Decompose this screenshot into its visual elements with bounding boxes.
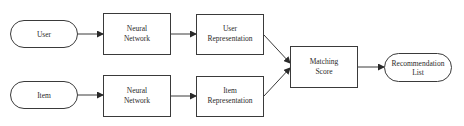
item-rep-label-line2: Representation: [208, 96, 253, 105]
node-user: User: [11, 21, 78, 48]
node-neural-network-top: Neural Network: [104, 14, 171, 55]
nn-bottom-label-line1: Neural: [127, 86, 147, 95]
item-rep-label-line1: Item: [223, 86, 237, 95]
nn-top-label-line1: Neural: [127, 24, 147, 33]
user-rep-label-line2: Representation: [208, 34, 253, 43]
node-item: Item: [11, 82, 78, 109]
node-neural-network-bottom: Neural Network: [104, 76, 171, 117]
edge-item-rep-to-matching: [264, 68, 290, 96]
nn-bottom-label-line2: Network: [124, 96, 150, 105]
user-rep-label-line1: User: [223, 24, 238, 33]
edge-user-rep-to-matching: [264, 35, 290, 63]
reclist-label-line2: List: [412, 68, 425, 77]
node-recommendation-list: Recommendation List: [385, 54, 452, 82]
item-label: Item: [37, 91, 51, 100]
user-label: User: [37, 30, 52, 39]
diagram-canvas: User Neural Network User Representation …: [0, 0, 464, 126]
nn-top-label-line2: Network: [124, 34, 150, 43]
matching-label-line2: Score: [315, 67, 333, 76]
node-item-representation: Item Representation: [197, 77, 264, 117]
matching-label-line1: Matching: [310, 57, 339, 66]
reclist-label-line1: Recommendation: [392, 59, 445, 68]
node-user-representation: User Representation: [197, 15, 264, 55]
node-matching-score: Matching Score: [291, 47, 358, 88]
